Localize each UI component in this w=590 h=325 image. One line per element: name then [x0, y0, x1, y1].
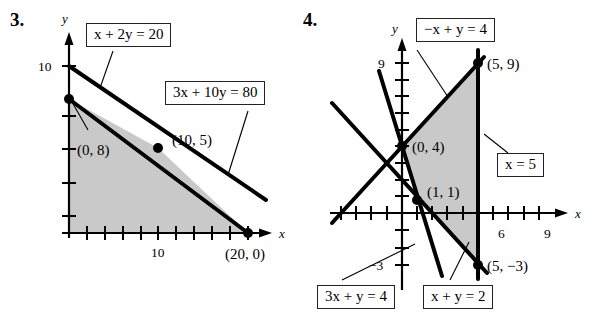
shaded-feasible-region-4 [402, 63, 478, 265]
problem-4-panel: 4. [295, 0, 590, 325]
equation-box-3x-plus-10y-eq-80: 3x + 10y = 80 [165, 81, 265, 105]
point-label-20-0: (20, 0) [225, 246, 265, 263]
leader-x-plus-y-eq-2 [450, 242, 469, 280]
point-label-10-5: (10, 5) [172, 132, 212, 149]
x-tick-label-10-3: 10 [151, 245, 165, 260]
y-tick-label-9-4: 9 [378, 56, 385, 71]
vertex-dot-0-4 [397, 141, 407, 151]
x-axis-arrowhead-3 [259, 229, 272, 238]
y-axis-arrowhead-3 [65, 32, 74, 45]
equation-box-neg-x-plus-y-eq-4: −x + y = 4 [416, 18, 495, 42]
problem-3-panel: 3. [0, 0, 295, 325]
leader-neg-x-plus-y-eq-4 [417, 50, 448, 97]
equation-box-x-plus-2y-eq-20: x + 2y = 20 [86, 23, 171, 47]
y-tick-label-neg3-4: −3 [369, 258, 384, 273]
point-label-0-8: (0, 8) [77, 142, 110, 159]
point-label-5-neg3: (5, −3) [487, 258, 528, 275]
vertex-dot-5-neg3 [473, 260, 483, 270]
leader-x-eq-5 [484, 134, 508, 153]
y-tick-label-10-3: 10 [38, 59, 52, 74]
x-axis-arrowhead-4 [555, 209, 568, 218]
leader-x-plus-2y-eq-20 [100, 51, 113, 88]
point-label-0-4: (0, 4) [412, 139, 445, 156]
y-axis-label-3: y [60, 11, 68, 26]
vertex-dot-1-1 [412, 195, 422, 205]
vertex-dot-20-0 [243, 228, 253, 238]
vertex-dot-5-9 [473, 58, 483, 68]
problem-4-graph: x y 9 −3 6 9 (5, 9) (0, 4) (1, 1) (5, −3… [295, 0, 590, 325]
vertex-dot-10-5 [153, 143, 163, 153]
problem-3-graph: x y 10 10 (0, 8) (10, 5) (20, 0) [0, 0, 295, 325]
y-axis-label-4: y [390, 21, 398, 36]
y-axis-arrowhead-4 [398, 38, 407, 51]
point-label-1-1: (1, 1) [427, 184, 460, 201]
x-tick-label-6-4: 6 [498, 226, 505, 241]
x-tick-label-9-4: 9 [544, 226, 551, 241]
point-label-5-9: (5, 9) [487, 56, 520, 73]
worksheet-page: 3. [0, 0, 590, 325]
equation-box-x-eq-5: x = 5 [497, 153, 544, 177]
x-axis-label-3: x [278, 226, 285, 241]
equation-box-x-plus-y-eq-2: x + y = 2 [423, 285, 493, 309]
x-axis-label-4: x [574, 206, 581, 221]
equation-box-3x-plus-y-eq-4: 3x + y = 4 [317, 285, 395, 309]
leader-3x-plus-10y-eq-80 [228, 111, 248, 175]
